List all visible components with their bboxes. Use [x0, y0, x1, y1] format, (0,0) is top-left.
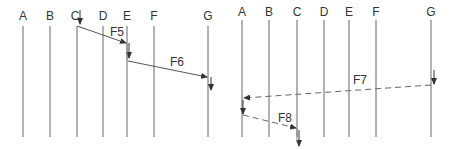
lifeline-a: A: [19, 9, 27, 137]
lifeline-label: D: [320, 5, 329, 19]
sequence-diagrams: A B C D E F G: [0, 0, 455, 149]
lifeline-f: F: [372, 5, 379, 137]
lifeline-g: G: [203, 9, 212, 137]
lifeline-label: C: [293, 5, 302, 19]
lifeline-c: C: [71, 9, 80, 137]
lifeline-label: B: [46, 9, 54, 23]
message-f5: F5: [77, 25, 126, 43]
lifeline-label: F: [372, 5, 379, 19]
lifeline-label: E: [345, 5, 353, 19]
lifeline-b: B: [265, 5, 273, 137]
lifeline-f: F: [150, 9, 157, 137]
lifeline-a: A: [238, 5, 246, 137]
down-arrow-icon: [297, 128, 299, 146]
lifeline-label: A: [19, 9, 27, 23]
lifeline-d: D: [99, 9, 108, 137]
lifeline-b: B: [46, 9, 54, 137]
lifeline-e: E: [345, 5, 353, 137]
lifeline-label: A: [238, 5, 246, 19]
message-label: F5: [110, 25, 124, 39]
lifeline-label: E: [123, 9, 131, 23]
message-f7: F7: [244, 73, 431, 98]
message-f6: F6: [128, 55, 207, 77]
down-arrow-icon: [127, 43, 129, 60]
lifeline-d: D: [320, 5, 329, 137]
lifeline-e: E: [123, 9, 131, 137]
message-label: F8: [278, 111, 292, 125]
lifeline-label: C: [71, 9, 80, 23]
message-label: F6: [170, 55, 184, 69]
lifeline-label: F: [150, 9, 157, 23]
lifeline-label: G: [203, 9, 212, 23]
lifeline-label: B: [265, 5, 273, 19]
right-diagram: A B C D E F G: [238, 5, 436, 146]
left-diagram: A B C D E F G: [19, 9, 213, 137]
lifeline-label: G: [426, 5, 435, 19]
lifeline-c: C: [293, 5, 302, 137]
lifeline-label: D: [99, 9, 108, 23]
message-label: F7: [353, 73, 367, 87]
